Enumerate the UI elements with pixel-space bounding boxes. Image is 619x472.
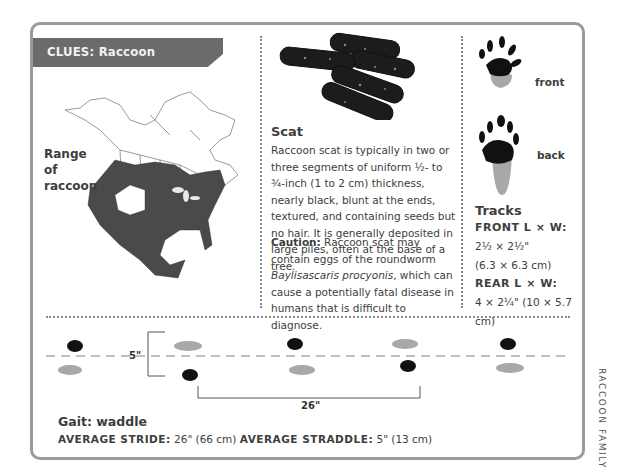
caution-label: Caution: <box>271 236 321 248</box>
scat-illustration <box>275 25 455 120</box>
stride-measure: 26" <box>301 400 320 411</box>
divider-vertical-right <box>461 36 463 308</box>
front-track-icon <box>476 30 546 100</box>
trail-prints <box>58 338 524 381</box>
trail-diagram <box>30 320 585 410</box>
species-name: Baylisascaris procyonis <box>271 269 393 281</box>
straddle-measure: 5" <box>129 350 141 361</box>
back-track-icon <box>476 105 546 200</box>
back-track-label: back <box>537 149 565 161</box>
scat-title: Scat <box>271 124 303 139</box>
tracks-title: Tracks <box>475 203 585 219</box>
front-size-in: 2½ × 2½" <box>475 237 585 256</box>
front-track-label: front <box>535 76 564 88</box>
gait-title: Gait: waddle <box>58 414 147 429</box>
gait-stats: AVERAGE STRIDE: 26" (66 cm) AVERAGE STRA… <box>58 433 432 445</box>
divider-vertical-left <box>260 36 262 308</box>
rear-heading: REAR L × W: <box>475 275 585 293</box>
stride-value: 26" (66 cm) <box>171 433 240 445</box>
front-size-cm: (6.3 × 6.3 cm) <box>475 256 585 275</box>
caution-note: Caution: Raccoon scat may contain eggs o… <box>271 234 456 333</box>
front-heading: FRONT L × W: <box>475 219 585 237</box>
straddle-bracket <box>148 332 165 376</box>
stride-label: AVERAGE STRIDE: <box>58 433 171 445</box>
section-side-label: RACCOON FAMILY <box>597 368 607 469</box>
page-title: CLUES: Raccoon <box>47 44 155 59</box>
straddle-label: AVERAGE STRADDLE: <box>240 433 373 445</box>
range-area <box>88 160 225 278</box>
range-label: Range of raccoon <box>44 146 104 194</box>
tracks-measurements: Tracks FRONT L × W: 2½ × 2½" (6.3 × 6.3 … <box>475 203 585 331</box>
stride-bracket <box>198 386 420 398</box>
straddle-value: 5" (13 cm) <box>373 433 432 445</box>
header-banner: CLUES: Raccoon <box>33 38 223 67</box>
